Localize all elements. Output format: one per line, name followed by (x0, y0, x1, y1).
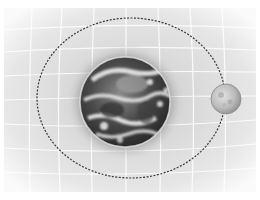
moon (211, 84, 241, 114)
illustration-canvas (0, 0, 260, 200)
earth-moon-orbit-illustration (0, 0, 260, 200)
earth (80, 57, 170, 147)
